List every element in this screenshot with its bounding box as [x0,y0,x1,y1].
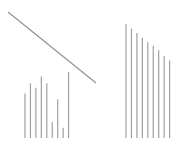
diagonal-line [8,12,96,83]
left-bar-group [25,72,69,138]
right-bar-group [126,24,170,138]
diagonal-line-group [8,12,96,83]
diagram-canvas [0,0,181,147]
